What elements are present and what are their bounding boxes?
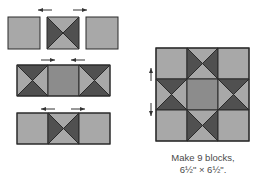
light-square xyxy=(79,113,110,144)
press-arrow-right xyxy=(71,107,85,111)
arrow-head xyxy=(82,8,87,12)
block-unit-light-square xyxy=(218,110,249,141)
arrow-head xyxy=(41,107,46,111)
light-square xyxy=(156,48,187,79)
arrow-head xyxy=(71,58,76,62)
caption-line-1: Make 9 blocks, xyxy=(150,152,256,164)
block-unit-star-point-right xyxy=(218,79,249,110)
arrow-head xyxy=(149,68,153,73)
center-square xyxy=(187,79,218,110)
unit-light-square xyxy=(8,17,40,49)
light-square xyxy=(86,17,118,49)
light-square xyxy=(218,48,249,79)
caption-line-2: 6½" × 6½". xyxy=(150,164,256,176)
arrow-head xyxy=(149,111,153,116)
unit-light-square xyxy=(86,17,118,49)
unit-light-square xyxy=(79,113,110,144)
press-arrow-left xyxy=(71,58,85,62)
unit-hourglass-horizontal-dark xyxy=(17,65,48,96)
assembly-row-3 xyxy=(17,113,110,144)
assembly-row-2 xyxy=(17,65,110,96)
arrow-head xyxy=(38,8,43,12)
light-square xyxy=(218,110,249,141)
press-arrow-right xyxy=(73,8,87,12)
block-caption: Make 9 blocks, 6½" × 6½". xyxy=(150,152,256,176)
light-square xyxy=(8,17,40,49)
unit-hourglass-vertical-dark xyxy=(47,17,79,49)
finished-block xyxy=(156,48,249,141)
block-unit-star-point-bottom xyxy=(187,110,218,141)
block-unit-star-point-left xyxy=(156,79,187,110)
assembly-row-1 xyxy=(8,17,118,49)
unit-hourglass-vertical-dark xyxy=(48,113,79,144)
light-square xyxy=(17,113,48,144)
block-unit-light-square xyxy=(156,110,187,141)
unit-medium-square xyxy=(48,65,79,96)
press-arrow-right xyxy=(41,58,55,62)
unit-hourglass-horizontal-dark xyxy=(79,65,110,96)
center-square xyxy=(48,65,79,96)
block-unit-light-square xyxy=(156,48,187,79)
block-unit-star-point-top xyxy=(187,48,218,79)
block-unit-light-square xyxy=(218,48,249,79)
press-arrow-left xyxy=(41,107,55,111)
press-arrow-down xyxy=(149,103,153,116)
light-square xyxy=(156,110,187,141)
block-unit-medium-square xyxy=(187,79,218,110)
press-arrow-left xyxy=(38,8,52,12)
arrow-head xyxy=(80,107,85,111)
unit-light-square xyxy=(17,113,48,144)
arrow-head xyxy=(50,58,55,62)
press-arrow-up xyxy=(149,68,153,81)
